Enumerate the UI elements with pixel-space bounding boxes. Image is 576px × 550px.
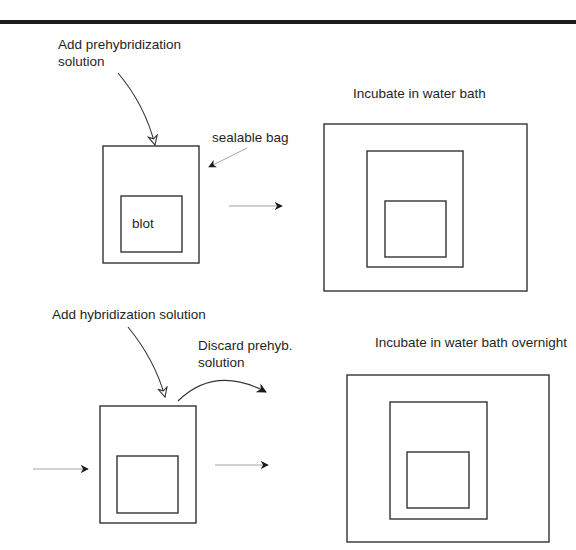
sealable-bag-in-bath-1: [367, 151, 463, 267]
add-hybridization-arrow: [128, 327, 165, 397]
sealable-bag-in-bath-2: [390, 402, 487, 519]
blot-in-bath-2: [407, 452, 469, 508]
sealable-bag-1: [103, 146, 199, 263]
water-bath-2: [347, 375, 549, 542]
add-prehyb-arrow: [118, 73, 155, 145]
sealable-bag-pointer-arrow: [209, 148, 247, 167]
blot-2: [117, 456, 178, 513]
blot-in-bath-1: [385, 201, 446, 257]
sealable-bag-2: [100, 406, 196, 523]
discard-prehyb-arrow: [178, 380, 266, 401]
blot-1: [121, 196, 182, 252]
protocol-diagram: [0, 0, 576, 550]
water-bath-1: [324, 124, 527, 291]
